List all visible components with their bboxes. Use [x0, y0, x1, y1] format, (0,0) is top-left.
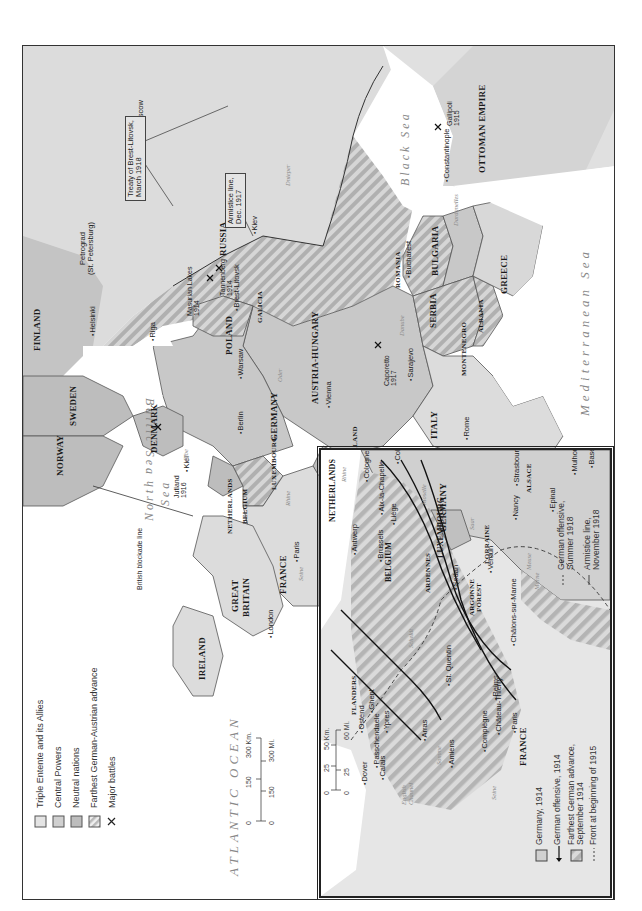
inset-city-sedan: Sedan [452, 565, 460, 590]
inset-scale-km-25: 25 [323, 764, 330, 772]
label-netherlands: NETHERLANDS [227, 479, 234, 535]
inset-river-rhine: Rhine [341, 467, 348, 482]
label-romania: ROMANIA [395, 252, 402, 288]
inset-legend-farthest-advance: Farthest German advance, September 1914 [567, 744, 585, 845]
label-germany: GERMANY [270, 392, 279, 441]
scale-mi-150: 150 [268, 786, 275, 798]
inset-label-argonne-2: FOREST [476, 583, 483, 612]
inset-river-somme: Somme [436, 746, 443, 765]
label-belgium: BELGIUM [242, 489, 249, 524]
river-oder: Oder [277, 369, 284, 382]
inset-legend-offensive-1914: German offensive, 1914 [553, 754, 562, 845]
scale-bar [256, 738, 266, 821]
inset-city-nancy: Nancy [512, 495, 520, 520]
inset-legend-offensive-1918: German offensive, Summer 1918 [557, 501, 575, 570]
inset-city-chalons: Châlons-sur-Marne [510, 578, 518, 646]
sea-atlantic: ATLANTIC OCEAN [227, 715, 240, 876]
inset-label-belgium: BELGIUM [385, 542, 393, 582]
river-elbe: Elbe [183, 449, 190, 461]
inset-label-ardennes: ARDENNES [425, 553, 432, 593]
norway-land [23, 436, 123, 506]
sea-black: Black Sea [399, 111, 411, 186]
inset-city-basel: Basel [588, 448, 596, 468]
scale-mi-300: 300 Mi. [268, 739, 275, 762]
inset-city-dover: Dover [361, 762, 369, 785]
label-great-britain-1: GREAT [231, 580, 240, 612]
scale-km-300: 300 Km. [245, 732, 252, 758]
inset-city-antwerp: Antwerp [351, 524, 359, 555]
legend-triple-entente: Triple Entente and its Allies [36, 700, 45, 808]
legend-swatches [35, 816, 115, 827]
city-constantinople: Constantinople [443, 129, 451, 182]
inset-legend-front-1915: Front at beginning of 1915 [589, 746, 598, 845]
inset-city-calais: Calais [379, 756, 387, 780]
inset-city-arras: Arras [421, 720, 429, 741]
inset-river-english-2: Channel [408, 783, 415, 805]
label-austria-hungary: AUSTRIA-HUNGARY [311, 311, 320, 404]
city-bucharest: Bucharest [405, 241, 413, 278]
inset-river-meuse: Meuse [526, 553, 533, 570]
battle-tannenberg: Tannenberg 1914 [219, 259, 233, 296]
city-riga: Riga [149, 322, 157, 341]
legend-central-powers: Central Powers [54, 746, 63, 808]
label-sweden: SWEDEN [69, 386, 78, 426]
scale-km-150: 150 [245, 776, 252, 788]
inset-label-germany: GERMANY [439, 483, 448, 532]
inset-scale-mi-25: 25 [343, 768, 350, 776]
label-albania: ALBANIA [478, 299, 485, 333]
label-serbia: SERBIA [429, 293, 438, 328]
inset-river-saar: Saar [469, 518, 476, 530]
city-kiev: Kiev [251, 216, 259, 234]
inset-river-moselle: Moselle [421, 484, 428, 505]
inset-city-st-quentin: St. Quentin [445, 645, 453, 686]
label-france: FRANCE [279, 555, 288, 594]
city-brest-litovsk: Brest-Litovsk [233, 264, 241, 311]
battle-gallipoli: Gallipoli 1915 [446, 101, 460, 126]
city-vienna: Vienna [325, 381, 333, 408]
city-sarajevo: Sarajevo [407, 348, 415, 381]
label-blockade-line: British blockade line [136, 528, 143, 591]
battle-jutland: Jutland 1916 [173, 475, 187, 498]
inset-city-compiegne: Compiègne [481, 710, 489, 752]
inset-city-coblenz: Coblenz [394, 448, 402, 464]
inset-city-ghent: Ghent [368, 689, 376, 713]
inset-legend-armistice-1918: Armistice line, November 1918 [583, 510, 601, 570]
city-rome: Rome [463, 417, 471, 440]
river-danube: Danube [399, 315, 406, 336]
inset-city-liege: Liège [390, 503, 398, 525]
map-frame: Triple Entente and its Allies Central Po… [22, 45, 615, 900]
inset-river-marne: Marne [534, 573, 541, 590]
sea-north-1: North [143, 478, 155, 521]
river-rhine: Rhine [285, 491, 292, 506]
river-dnieper: Dnieper [285, 165, 292, 186]
inset-city-cologne: Cologne [363, 451, 371, 482]
label-norway: NORWAY [56, 435, 65, 476]
city-berlin: Berlin [237, 411, 245, 434]
battle-caporetto: Caporetto 1917 [383, 355, 397, 386]
label-denmark: DENMARK [150, 404, 159, 453]
label-luxembourg: LUXEMBOURG [271, 436, 278, 490]
inset-scale-km-0: 0 [323, 791, 330, 795]
inset-legend-germany-1914: Germany, 1914 [535, 787, 544, 845]
label-montenegro: MONTENEGRO [461, 322, 468, 376]
inset-label-netherlands: NETHERLANDS [329, 459, 337, 522]
scale-mi-0: 0 [268, 821, 275, 825]
scale-km-0: 0 [245, 821, 252, 825]
legend-neutral: Neutral nations [72, 747, 81, 808]
inset-city-verdun: Verdun [487, 546, 495, 573]
inset-city-mulhouse: Mulhouse [571, 448, 579, 475]
inset-city-chateau-thierry: Château-Thierry [495, 677, 503, 735]
city-paris: Paris [293, 541, 301, 562]
label-ireland: IRELAND [198, 637, 207, 680]
city-petrograd-2: (St. Petersburg) [87, 222, 95, 276]
label-poland: POLAND [225, 316, 234, 355]
river-dardanelles: Dardanelles [453, 194, 460, 226]
inset-river-seine: Seine [491, 786, 498, 800]
inset-scale-mi-60: 60 Mi. [343, 721, 350, 740]
label-greece: GREECE [500, 255, 509, 294]
legend-farthest-advance: Farthest German-Austrian advance [90, 667, 99, 808]
label-italy: ITALY [430, 411, 439, 439]
label-ottoman: OTTOMAN EMPIRE [478, 85, 487, 173]
inset-city-strasbourg: Strasbourg [513, 448, 521, 486]
inset-city-aix: Aix-la-Chapelle [378, 461, 386, 515]
